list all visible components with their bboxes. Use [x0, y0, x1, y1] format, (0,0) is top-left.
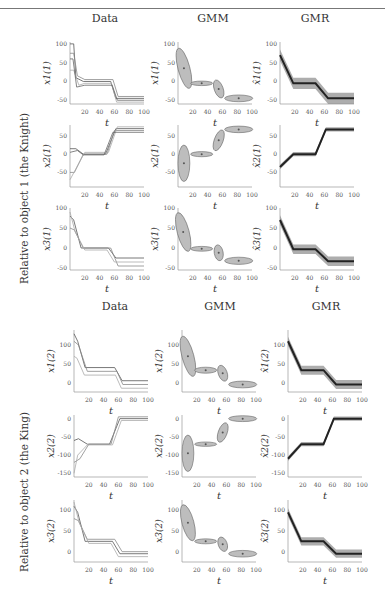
svg-text:80: 80: [335, 108, 343, 115]
svg-text:-50: -50: [275, 433, 285, 440]
svg-text:50: 50: [59, 132, 67, 139]
svg-text:-50: -50: [267, 168, 277, 175]
svg-text:50: 50: [269, 59, 277, 66]
svg-text:80: 80: [125, 191, 133, 198]
column-title-data: Data: [65, 12, 145, 25]
column-title-gmm-2: GMM: [180, 300, 260, 313]
svg-text:100: 100: [56, 204, 68, 211]
svg-text:20: 20: [193, 481, 201, 488]
svg-text:20: 20: [81, 191, 89, 198]
svg-text:100: 100: [274, 506, 286, 513]
svg-text:20: 20: [299, 396, 307, 403]
svg-text:0: 0: [171, 244, 175, 251]
svg-text:80: 80: [237, 396, 245, 403]
svg-text:-100: -100: [166, 451, 180, 458]
svg-text:x2(2): x2(2): [154, 434, 164, 458]
svg-text:100: 100: [356, 481, 368, 488]
svg-text:50: 50: [63, 360, 71, 367]
svg-text:100: 100: [266, 40, 278, 47]
svg-text:20: 20: [193, 566, 201, 573]
svg-text:60: 60: [111, 191, 119, 198]
svg-text:0: 0: [63, 244, 67, 251]
svg-text:-50: -50: [267, 264, 277, 271]
svg-text:60: 60: [115, 481, 123, 488]
svg-text:x̂3(2): x̂3(2): [260, 519, 270, 543]
svg-text:0: 0: [175, 379, 179, 386]
svg-text:100: 100: [56, 40, 68, 47]
svg-text:20: 20: [85, 566, 93, 573]
svg-text:-50: -50: [169, 433, 179, 440]
svg-text:80: 80: [129, 396, 137, 403]
svg-text:20: 20: [291, 108, 299, 115]
svg-text:40: 40: [100, 566, 108, 573]
svg-text:100: 100: [348, 108, 360, 115]
svg-text:0: 0: [67, 548, 71, 555]
svg-text:100: 100: [164, 40, 176, 47]
svg-text:x̂1(1): x̂1(1): [252, 61, 262, 85]
svg-text:80: 80: [129, 481, 137, 488]
svg-text:-150: -150: [166, 469, 180, 476]
svg-text:t: t: [323, 575, 328, 586]
svg-text:-50: -50: [57, 168, 67, 175]
svg-text:50: 50: [167, 132, 175, 139]
svg-text:-50: -50: [61, 433, 71, 440]
svg-text:40: 40: [100, 396, 108, 403]
svg-text:60: 60: [223, 566, 231, 573]
svg-text:100: 100: [356, 566, 368, 573]
svg-text:t: t: [217, 575, 222, 586]
svg-text:20: 20: [189, 191, 197, 198]
svg-text:20: 20: [189, 108, 197, 115]
svg-text:80: 80: [125, 108, 133, 115]
svg-text:80: 80: [343, 396, 351, 403]
svg-text:100: 100: [60, 506, 72, 513]
svg-text:0: 0: [273, 244, 277, 251]
svg-text:0: 0: [273, 150, 277, 157]
plot-panel-gmr-15: 20406080100-150-100-500tx̂2(2): [248, 411, 382, 508]
svg-text:40: 40: [208, 396, 216, 403]
svg-text:x̂2(2): x̂2(2): [260, 434, 270, 458]
svg-text:100: 100: [348, 191, 360, 198]
svg-text:0: 0: [63, 77, 67, 84]
svg-text:x2(1): x2(1): [150, 144, 160, 168]
svg-text:-150: -150: [272, 469, 286, 476]
svg-text:0: 0: [67, 379, 71, 386]
svg-text:50: 50: [59, 224, 67, 231]
svg-text:0: 0: [281, 415, 285, 422]
svg-text:40: 40: [306, 108, 314, 115]
svg-text:60: 60: [329, 481, 337, 488]
svg-text:x3(1): x3(1): [150, 227, 160, 251]
svg-text:50: 50: [167, 224, 175, 231]
plot-panel-gmr-9: 20406080100-50050100tx̂3(1): [240, 204, 374, 301]
svg-text:0: 0: [67, 415, 71, 422]
svg-text:x3(2): x3(2): [154, 519, 164, 543]
svg-text:50: 50: [59, 59, 67, 66]
svg-text:20: 20: [299, 566, 307, 573]
svg-text:x1(2): x1(2): [46, 349, 56, 373]
svg-text:80: 80: [237, 566, 245, 573]
svg-text:20: 20: [299, 481, 307, 488]
svg-text:60: 60: [115, 396, 123, 403]
svg-text:100: 100: [356, 396, 368, 403]
svg-text:0: 0: [281, 379, 285, 386]
svg-text:0: 0: [175, 548, 179, 555]
svg-text:80: 80: [237, 481, 245, 488]
svg-text:80: 80: [335, 274, 343, 281]
svg-text:60: 60: [329, 396, 337, 403]
svg-text:0: 0: [171, 77, 175, 84]
column-title-gmr: GMR: [275, 12, 355, 25]
svg-text:60: 60: [321, 108, 329, 115]
svg-text:40: 40: [204, 108, 212, 115]
svg-text:100: 100: [60, 341, 72, 348]
svg-text:50: 50: [171, 527, 179, 534]
svg-text:100: 100: [168, 341, 180, 348]
svg-text:100: 100: [266, 204, 278, 211]
svg-text:t: t: [109, 575, 114, 586]
svg-text:x3(2): x3(2): [46, 519, 56, 543]
svg-text:50: 50: [63, 527, 71, 534]
svg-text:60: 60: [223, 481, 231, 488]
svg-text:t: t: [315, 283, 320, 294]
svg-text:-150: -150: [58, 469, 72, 476]
svg-text:80: 80: [343, 481, 351, 488]
svg-text:80: 80: [125, 274, 133, 281]
row-group-label-knight: Relative to object 1 (the Knight): [18, 113, 30, 284]
